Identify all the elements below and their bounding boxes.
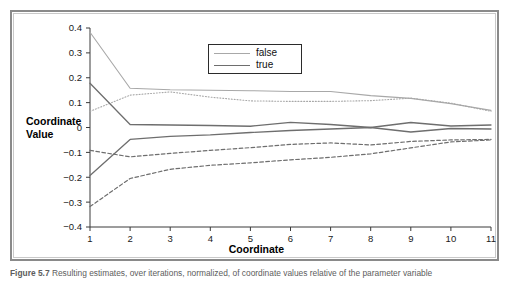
x-axis-label-text: Coordinate [229,243,284,255]
series-line-true-upper [90,83,491,127]
y-tick-label: −0.3 [63,197,82,208]
y-tick-label: 0.3 [69,47,82,58]
figure-frame: 0.40.30.20.10−0.1−0.2−0.3−0.412345678910… [10,10,499,261]
series-line-false-lower [90,92,491,111]
figure-caption: Figure 5.7 Resulting estimates, over ite… [10,268,510,278]
legend-label-true: true [256,59,273,71]
y-tick-label: −0.2 [63,172,82,183]
legend-swatch-true [214,65,250,66]
y-tick-label: −0.1 [63,147,82,158]
series-line-true-lower [90,128,491,176]
y-axis-label-text: Coordinate Value [26,115,81,140]
y-tick-label: 0.1 [69,97,82,108]
series-line-true-dashed-b [90,140,491,207]
legend-label-false: false [256,47,277,59]
y-tick-label: 0.4 [69,22,82,33]
legend-item-true: true [214,60,298,72]
y-tick-label: 0.2 [69,72,82,83]
y-axis-label: Coordinate Value [26,115,98,140]
chart-legend: false true [208,44,302,74]
x-axis-label: Coordinate [12,243,501,255]
figure-root: 0.40.30.20.10−0.1−0.2−0.3−0.412345678910… [0,0,514,283]
legend-swatch-false [214,53,250,54]
caption-label: Figure 5.7 [10,268,50,278]
y-tick-label: −0.4 [63,221,82,232]
caption-text: Resulting estimates, over iterations, no… [52,268,432,278]
series-line-true-dashed-a [90,139,491,156]
